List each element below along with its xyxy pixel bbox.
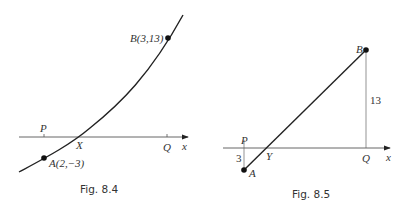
axis-label-x: x xyxy=(385,151,391,163)
figure-8-4: P X Q x A(2,−3) B(3,13) Fig. 8.4 xyxy=(19,15,188,195)
point-b-icon xyxy=(363,47,369,53)
length-qb: 13 xyxy=(370,94,382,106)
label-q: Q xyxy=(163,141,171,153)
label-b: B(3,13) xyxy=(130,32,164,45)
caption-fig-8-5: Fig. 8.5 xyxy=(292,188,330,200)
label-p: P xyxy=(240,134,248,146)
length-pa: 3 xyxy=(236,152,242,164)
label-x-point: X xyxy=(75,139,84,151)
label-a: A xyxy=(248,167,256,179)
point-a-icon xyxy=(41,155,47,161)
point-a-icon xyxy=(241,167,247,173)
caption-fig-8-4: Fig. 8.4 xyxy=(80,183,119,195)
label-b: B xyxy=(356,43,363,55)
label-q: Q xyxy=(362,152,370,164)
label-y: Y xyxy=(266,150,274,162)
axis-label-x: x xyxy=(181,140,187,152)
label-a: A(2,−3) xyxy=(48,157,85,170)
point-b-icon xyxy=(165,35,171,41)
figure-8-5: P 3 Y A B 13 Q x Fig. 8.5 xyxy=(223,43,391,200)
chord-ab xyxy=(244,50,366,170)
label-p: P xyxy=(39,122,47,134)
diagram-canvas: P X Q x A(2,−3) B(3,13) Fig. 8.4 P 3 Y A… xyxy=(0,0,405,208)
